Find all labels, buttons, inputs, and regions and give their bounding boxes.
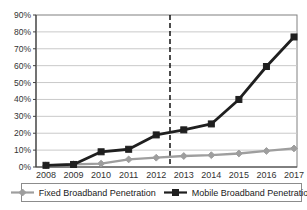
svg-text:0%: 0% <box>19 162 32 172</box>
svg-text:2009: 2009 <box>64 170 84 180</box>
svg-text:2016: 2016 <box>256 170 276 180</box>
svg-text:2013: 2013 <box>174 170 194 180</box>
legend-label-fixed: Fixed Broadband Penetration <box>39 188 156 198</box>
svg-text:2015: 2015 <box>229 170 249 180</box>
mobile-series-line-marker-icon <box>163 188 188 197</box>
legend-label-mobile: Mobile Broadband Penetration <box>192 188 307 198</box>
legend-item-fixed-broadband: Fixed Broadband Penetration <box>10 188 156 198</box>
svg-text:20%: 20% <box>14 128 31 138</box>
svg-text:2008: 2008 <box>36 170 56 180</box>
svg-text:2010: 2010 <box>91 170 111 180</box>
plot-area: 0%10%20%30%40%50%60%70%80%90%20082009201… <box>0 0 307 183</box>
svg-text:40%: 40% <box>14 94 31 104</box>
svg-text:2012: 2012 <box>146 170 166 180</box>
svg-text:50%: 50% <box>14 78 31 88</box>
svg-text:70%: 70% <box>14 44 31 54</box>
svg-text:2011: 2011 <box>119 170 138 180</box>
svg-text:2014: 2014 <box>201 170 221 180</box>
svg-text:80%: 80% <box>14 27 31 37</box>
svg-text:90%: 90% <box>14 10 31 20</box>
svg-text:10%: 10% <box>14 145 31 155</box>
svg-text:60%: 60% <box>14 61 31 71</box>
fixed-series-line-marker-icon <box>10 188 35 197</box>
chart-legend: Fixed Broadband Penetration Mobile Broad… <box>21 183 302 202</box>
svg-text:30%: 30% <box>14 111 31 121</box>
broadband-penetration-chart: 0%10%20%30%40%50%60%70%80%90%20082009201… <box>0 0 307 210</box>
legend-item-mobile-broadband: Mobile Broadband Penetration <box>163 188 307 198</box>
svg-text:2017: 2017 <box>284 170 304 180</box>
